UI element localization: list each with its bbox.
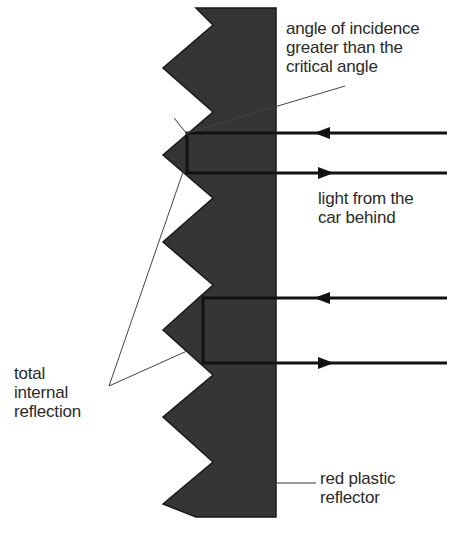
red-plastic-reflector-shape (163, 8, 276, 517)
label-line: reflector (320, 488, 395, 507)
reflector-diagram (0, 0, 460, 534)
pointer-tir-lower (109, 351, 187, 386)
pointer-tir-upper (109, 172, 183, 386)
label-line: car behind (318, 208, 413, 227)
label-line: critical angle (286, 57, 419, 76)
label-line: red plastic (320, 469, 395, 488)
label-line: total (14, 364, 81, 383)
arrowhead-outgoing-lower (318, 357, 334, 369)
arrowhead-outgoing-upper (318, 167, 334, 179)
label-line: angle of incidence (286, 19, 419, 38)
label-line: greater than the (286, 38, 419, 57)
light-from-car-label: light from the car behind (318, 189, 413, 227)
red-plastic-reflector-label: red plastic reflector (320, 469, 395, 507)
label-line: reflection (14, 402, 81, 421)
total-internal-reflection-label: total internal reflection (14, 364, 81, 421)
label-line: light from the (318, 189, 413, 208)
arrowhead-incoming-lower (314, 292, 330, 304)
label-line: internal (14, 383, 81, 402)
arrowhead-incoming-upper (314, 127, 330, 139)
angle-of-incidence-label: angle of incidence greater than the crit… (286, 19, 419, 76)
